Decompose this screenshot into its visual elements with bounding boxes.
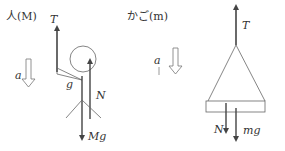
person-leg-right: [82, 100, 101, 118]
person-title: 人(M): [6, 11, 37, 22]
person-accel-label: a: [15, 70, 22, 81]
person-normal-label: N: [96, 90, 106, 101]
person-leg-left: [66, 100, 82, 118]
person-weight-label: Mg: [88, 131, 106, 142]
basket-title: かご(m): [127, 11, 168, 22]
basket-weight-label: mg: [243, 125, 260, 136]
person-accel-arrow: [22, 59, 35, 87]
basket-accel-arrow: [169, 48, 182, 74]
person-figure: [57, 28, 101, 138]
basket-ropes: [208, 45, 265, 101]
basket-tension-label: T: [242, 20, 249, 31]
basket-accel-label: a: [154, 55, 161, 66]
free-body-diagrams: 人(M) T g N Mg a かご(m) T a N mg: [0, 0, 285, 151]
basket-normal-label: N: [214, 124, 224, 135]
person-g-label: g: [66, 79, 73, 90]
person-tension-label: T: [50, 14, 57, 25]
person-head: [70, 46, 96, 72]
basket-figure: [206, 7, 265, 139]
